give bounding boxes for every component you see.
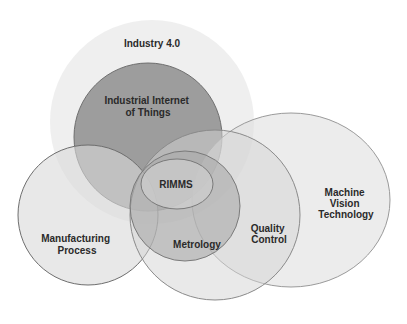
venn-diagram: Industry 4.0 Industrial Internet of Thin… (0, 0, 407, 324)
metrology-label: Metrology (173, 239, 221, 250)
industry40-label: Industry 4.0 (124, 38, 181, 49)
quality-control-label: Quality Control (251, 223, 288, 245)
rimms-label: RIMMS (159, 179, 193, 190)
